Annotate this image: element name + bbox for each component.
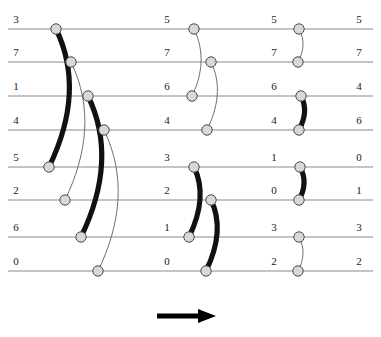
value-label-0-2: 1	[9, 81, 23, 92]
value-label-3-0: 5	[352, 14, 366, 25]
value-label-1-1: 7	[160, 47, 174, 58]
comparator-c5-node-bottom	[187, 91, 197, 101]
comparator-c7-thick	[189, 167, 200, 237]
value-label-0-4: 5	[9, 152, 23, 163]
comparator-links	[49, 29, 305, 271]
value-label-3-7: 2	[352, 256, 366, 267]
value-label-2-5: 0	[267, 185, 281, 196]
comparator-c1-node-bottom	[44, 162, 54, 172]
comparator-c8-node-top	[206, 195, 216, 205]
comparator-c6-node-bottom	[202, 125, 212, 135]
value-label-3-3: 6	[352, 115, 366, 126]
value-label-0-7: 0	[9, 256, 23, 267]
comparator-c3-node-bottom	[76, 232, 86, 242]
value-label-0-1: 7	[9, 47, 23, 58]
value-label-1-3: 4	[160, 115, 174, 126]
value-label-3-1: 7	[352, 47, 366, 58]
comparator-c12-node-top	[294, 232, 304, 242]
comparator-c8-thick	[206, 200, 217, 271]
comparator-c11-node-top	[295, 162, 305, 172]
value-label-2-3: 4	[267, 115, 281, 126]
comparator-c7-node-top	[189, 162, 199, 172]
comparator-c9-node-top	[294, 24, 304, 34]
comparator-c2-node-bottom	[60, 195, 70, 205]
value-label-2-2: 6	[267, 81, 281, 92]
value-label-2-1: 7	[267, 47, 281, 58]
comparator-c3-node-top	[83, 91, 93, 101]
value-label-1-0: 5	[160, 14, 174, 25]
comparator-c4-node-bottom	[93, 266, 103, 276]
comparator-c1-node-top	[51, 24, 61, 34]
value-label-3-5: 1	[352, 185, 366, 196]
value-label-1-7: 0	[160, 256, 174, 267]
value-label-1-4: 3	[160, 152, 174, 163]
comparator-c4-node-top	[99, 125, 109, 135]
direction-arrow-icon	[157, 309, 216, 323]
comparator-c12-node-bottom	[293, 266, 303, 276]
value-label-2-4: 1	[267, 152, 281, 163]
comparator-c9-node-bottom	[293, 57, 303, 67]
value-label-1-6: 1	[160, 222, 174, 233]
value-label-2-6: 3	[267, 222, 281, 233]
value-label-0-6: 6	[9, 222, 23, 233]
comparator-c11-node-bottom	[294, 195, 304, 205]
comparator-c7-node-bottom	[184, 232, 194, 242]
value-label-1-2: 6	[160, 81, 174, 92]
value-label-3-6: 3	[352, 222, 366, 233]
comparator-c10-node-top	[296, 91, 306, 101]
comparator-c8-node-bottom	[201, 266, 211, 276]
value-label-1-5: 2	[160, 185, 174, 196]
value-label-2-7: 2	[267, 256, 281, 267]
arrow-head	[198, 309, 216, 323]
value-label-2-0: 5	[267, 14, 281, 25]
comparator-c6-node-top	[206, 57, 216, 67]
value-label-0-5: 2	[9, 185, 23, 196]
comparator-c1-thick	[49, 29, 69, 167]
value-label-0-0: 3	[9, 14, 23, 25]
comparator-c10-node-bottom	[294, 125, 304, 135]
value-label-0-3: 4	[9, 115, 23, 126]
comparator-c5-node-top	[189, 24, 199, 34]
value-label-3-2: 4	[352, 81, 366, 92]
value-label-3-4: 0	[352, 152, 366, 163]
sorting-network-diagram: 37145260576432105764103257460132	[0, 0, 381, 337]
network-canvas	[0, 0, 381, 337]
comparator-c2-node-top	[66, 57, 76, 67]
